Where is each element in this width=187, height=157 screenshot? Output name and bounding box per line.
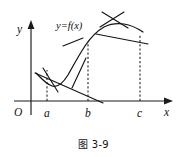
y-axis-label: y <box>16 23 23 36</box>
function-label: y=f(x) <box>55 20 83 32</box>
tick-label-c: c <box>137 107 142 119</box>
tick-label-a: a <box>44 107 50 119</box>
y-axis-arrow-icon <box>28 20 35 29</box>
tangent-line-at-a <box>35 73 103 103</box>
x-axis-label: x <box>163 106 170 118</box>
secant-line-near-b <box>63 38 83 46</box>
tangent-line-at-b <box>72 58 86 88</box>
tick-label-b: b <box>85 107 91 119</box>
figure-caption: 图 3-9 <box>0 130 187 157</box>
tangent-cross-stroke-a <box>43 68 58 92</box>
x-axis-arrow-icon <box>164 98 173 105</box>
origin-label: O <box>14 106 23 118</box>
function-curve <box>36 24 143 87</box>
tangent-line-at-maximum <box>96 34 148 44</box>
figure-container: y x O a b c y=f(x) 图 3-9 <box>0 0 187 157</box>
plot-area: y x O a b c y=f(x) <box>0 0 187 130</box>
